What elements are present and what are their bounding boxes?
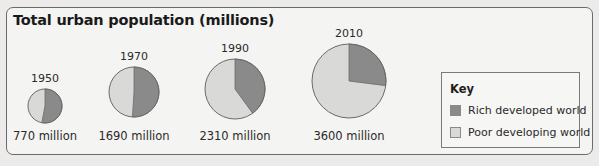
pie-year-label: 2010 (335, 27, 363, 40)
pie-1970 (109, 67, 159, 117)
pie-total-label: 770 million (13, 129, 77, 143)
pie-slice-rich (349, 44, 386, 86)
legend-label-rich: Rich developed world (468, 104, 587, 117)
pie-1990 (205, 59, 265, 119)
legend-title: Key (450, 82, 474, 96)
legend-label-poor: Poor developing world (468, 126, 590, 139)
legend-item-poor: Poor developing world (450, 126, 590, 139)
pie-2010 (312, 44, 386, 118)
legend-item-rich: Rich developed world (450, 104, 587, 117)
pie-total-label: 2310 million (199, 129, 270, 143)
pie-year-label: 1950 (31, 72, 59, 85)
legend-swatch-poor (450, 127, 461, 138)
pie-year-label: 1970 (120, 50, 148, 63)
pie-total-label: 3600 million (313, 129, 384, 143)
pie-slice-rich (132, 67, 159, 117)
pie-total-label: 1690 million (98, 129, 169, 143)
legend-swatch-rich (450, 105, 461, 116)
pie-1950 (28, 89, 62, 123)
pie-year-label: 1990 (221, 42, 249, 55)
legend: Key Rich developed world Poor developing… (441, 72, 580, 148)
pie-slice-rich (42, 89, 62, 123)
